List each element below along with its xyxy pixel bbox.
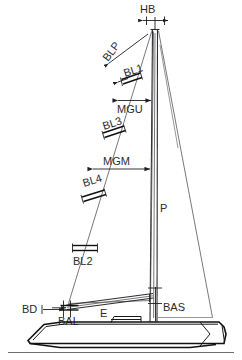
label-p: P (160, 202, 167, 214)
label-bas: BAS (163, 301, 185, 313)
label-mgu: MGU (117, 103, 143, 115)
label-hb: HB (140, 3, 155, 15)
mast (150, 29, 160, 322)
label-blp: BLP (100, 39, 122, 63)
label-mgm: MGM (103, 155, 130, 167)
hb-dimension (143, 17, 168, 31)
bl4-batten (81, 189, 107, 204)
rig-diagram-container: HB BLP (0, 0, 242, 360)
label-bl1: BL1 (122, 61, 144, 78)
label-bd: BD (22, 303, 37, 315)
mainsail (158, 31, 213, 318)
boom (67, 294, 154, 310)
label-e: E (100, 307, 107, 319)
label-bl2: BL2 (73, 255, 93, 267)
label-bal: BAL (58, 315, 79, 327)
bl2-batten (73, 244, 98, 253)
label-bl3: BL3 (101, 114, 123, 131)
label-bl4: BL4 (81, 172, 103, 189)
sailboat-rig-diagram: HB BLP (0, 0, 242, 360)
